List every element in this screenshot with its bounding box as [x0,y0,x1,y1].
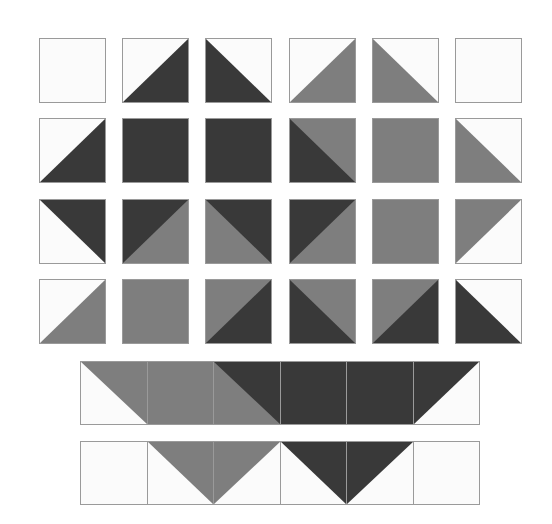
grid-tile-r3-c1 [39,199,106,264]
grid-tile-r4-c2 [122,279,189,344]
grid-tile-r4-c4 [289,279,356,344]
grid-tile-r2-c4 [289,118,356,183]
grid-tile-r3-c2 [122,199,189,264]
grid-tile-r1-c2 [122,38,189,103]
strip-2-cell-6 [413,441,480,505]
grid-tile-r4-c5 [372,279,439,344]
strip-2-cell-2 [147,441,214,505]
grid-tile-r3-c4 [289,199,356,264]
grid-tile-r2-c1 [39,118,106,183]
grid-tile-r4-c1 [39,279,106,344]
grid-tile-r1-c4 [289,38,356,103]
grid-tile-r2-c2 [122,118,189,183]
strip-1-cell-5 [346,361,414,425]
grid-tile-r4-c3 [205,279,272,344]
grid-tile-r3-c6 [455,199,522,264]
grid-tile-r2-c5 [372,118,439,183]
strip-2-cell-3 [213,441,281,505]
grid-tile-r4-c6 [455,279,522,344]
grid-tile-r3-c3 [205,199,272,264]
strip-1-cell-3 [213,361,281,425]
grid-tile-r1-c1 [39,38,106,103]
strip-1-cell-2 [147,361,214,425]
grid-tile-r1-c5 [372,38,439,103]
grid-tile-r2-c3 [205,118,272,183]
strip-1-cell-4 [280,361,347,425]
strip-1-cell-1 [80,361,148,425]
grid-tile-r3-c5 [372,199,439,264]
strip-2-cell-5 [346,441,414,505]
strip-1-cell-6 [413,361,480,425]
strip-2-cell-4 [280,441,347,505]
grid-tile-r2-c6 [455,118,522,183]
grid-tile-r1-c3 [205,38,272,103]
grid-tile-r1-c6 [455,38,522,103]
strip-2-cell-1 [80,441,148,505]
